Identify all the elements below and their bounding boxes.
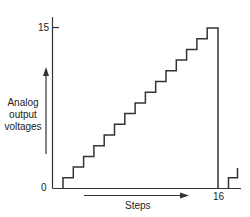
- y-tick-label-0: 0: [41, 182, 47, 194]
- staircase-waveform: [63, 28, 218, 189]
- x-axis-label: Steps: [125, 200, 151, 212]
- arrow-right-icon: [180, 193, 189, 199]
- staircase-restart: [229, 168, 238, 189]
- y-tick-label-15: 15: [38, 22, 49, 34]
- y-axis-label-line-3: voltages: [0, 121, 46, 133]
- y-axis-label: Analog output voltages: [0, 97, 46, 133]
- staircase-diagram: 15 0 Analog output voltages 16 Steps: [0, 0, 250, 217]
- y-axis-label-line-2: output: [0, 109, 46, 121]
- arrow-up-icon: [43, 67, 49, 76]
- y-axis-label-line-1: Analog: [0, 97, 46, 109]
- x-tick-label-16: 16: [213, 191, 224, 203]
